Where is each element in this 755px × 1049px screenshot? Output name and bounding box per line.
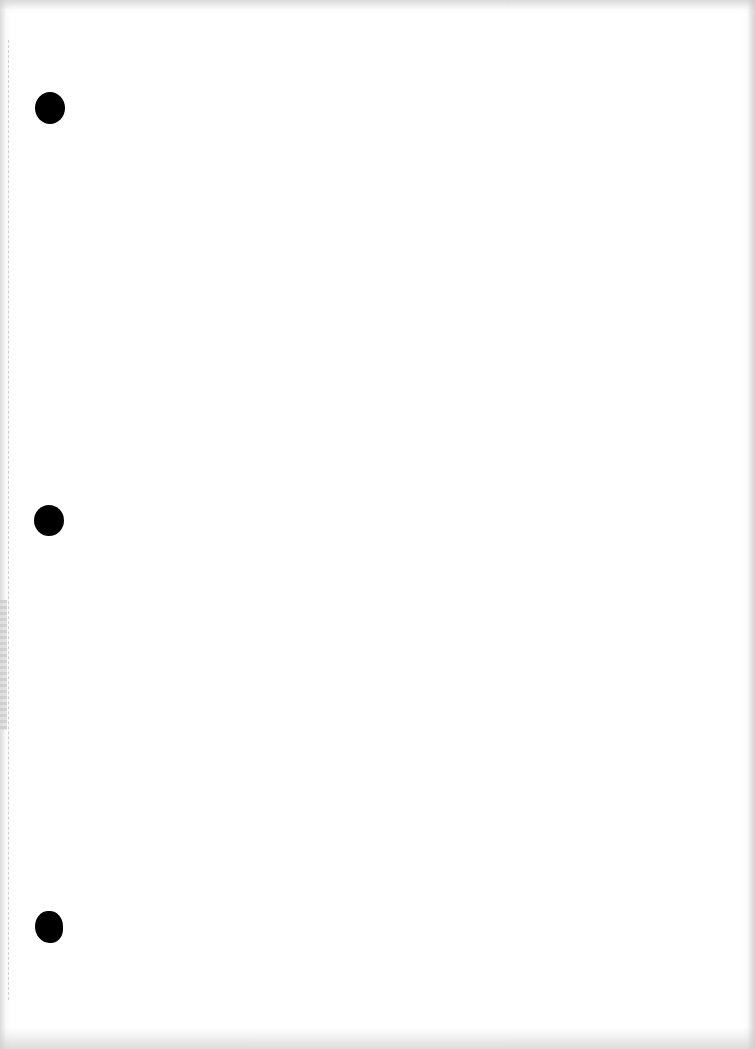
scanned-page bbox=[0, 0, 755, 1049]
punch-hole-top bbox=[35, 92, 65, 124]
punch-hole-middle bbox=[34, 505, 64, 536]
scan-shadow-left bbox=[0, 0, 6, 1049]
edge-shading bbox=[0, 600, 7, 730]
punch-hole-bottom bbox=[35, 911, 63, 943]
page-body bbox=[90, 60, 715, 989]
fold-line bbox=[8, 40, 9, 1000]
scan-shadow-bottom bbox=[0, 1027, 755, 1049]
scan-shadow-top bbox=[0, 0, 755, 10]
scan-shadow-right bbox=[747, 0, 755, 1049]
